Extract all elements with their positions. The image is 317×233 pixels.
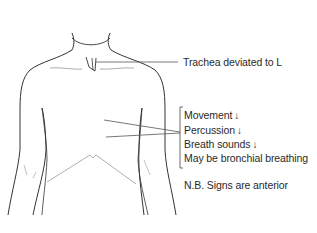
- trachea-label: Trachea deviated to L: [183, 57, 282, 68]
- sign-text: Breath sounds: [184, 138, 250, 150]
- signs-leader-line-1: [104, 120, 180, 132]
- sign-text: May be bronchial breathing: [184, 152, 308, 164]
- right-inner-arm-2: [138, 108, 148, 215]
- signs-bracket: [180, 107, 183, 168]
- right-flank-mark: [144, 160, 150, 175]
- right-inner-arm: [139, 108, 144, 215]
- sign-breath-sounds: Breath sounds↓: [184, 139, 257, 150]
- torso-outline-figure: [0, 0, 317, 233]
- neck-left-line: [72, 33, 74, 50]
- trachea-inner: [92, 58, 93, 70]
- anterior-note: N.B. Signs are anterior: [184, 180, 288, 191]
- chin-line: [72, 38, 110, 45]
- left-clavicle: [50, 68, 82, 69]
- sign-movement: Movement↓: [184, 110, 239, 121]
- chest-diagram: Trachea deviated to L Movement↓ Percussi…: [0, 0, 317, 233]
- costal-margin: [47, 155, 136, 184]
- sign-bronchial-breathing: May be bronchial breathing: [184, 153, 308, 164]
- down-arrow-icon: ↓: [234, 110, 239, 121]
- left-flank-mark-2: [33, 172, 36, 178]
- right-clavicle: [100, 68, 134, 69]
- down-arrow-icon: ↓: [237, 125, 242, 136]
- trachea-shape: [86, 57, 96, 71]
- left-flank-mark: [24, 165, 27, 175]
- down-arrow-icon: ↓: [252, 139, 257, 150]
- right-outer-contour: [111, 50, 176, 215]
- neck-right-line: [108, 33, 111, 50]
- sign-percussion: Percussion↓: [184, 125, 242, 136]
- sign-text: Percussion: [184, 124, 235, 136]
- sign-text: Movement: [184, 109, 232, 121]
- left-outer-contour: [8, 50, 72, 215]
- signs-leader-line-2: [106, 133, 180, 137]
